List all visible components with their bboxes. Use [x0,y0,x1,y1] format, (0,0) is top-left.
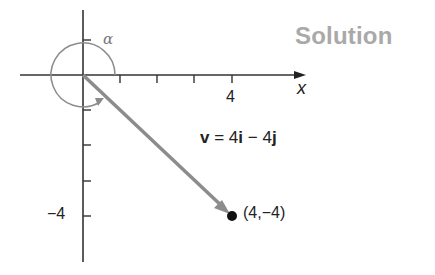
point-label: (4,−4) [243,204,285,222]
x-axis-label: x [297,78,306,99]
y-tick-label: −4 [47,205,65,223]
solution-heading: Solution [295,22,393,50]
unit-j: j [272,128,277,147]
angle-label: α [103,30,113,48]
x-tick-label: 4 [226,88,235,106]
eq-part-2: − 4 [243,128,272,147]
y-ticks [83,40,91,216]
eq-part-1: = 4 [209,128,238,147]
vector-equation: v = 4i − 4j [200,128,277,148]
x-ticks [120,75,232,83]
point-marker [227,211,237,221]
